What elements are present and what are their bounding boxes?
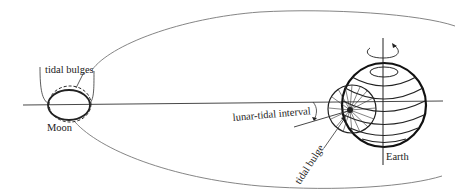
moon-label: Moon [47,122,73,133]
earth-label: Earth [386,151,409,162]
orbit-curve-upper [92,11,455,70]
tidal-bulge-label: tidal bulge [292,142,326,186]
lunar-tidal-interval-label: lunar-tidal interval [232,105,311,123]
tidal-bulges-label: tidal bulges [45,64,94,75]
moon: tidal bulges Moon [40,64,94,133]
lunar-tidal-interval: lunar-tidal interval [232,102,348,127]
earth-moon-axis [23,101,443,105]
tidal-diagram: tidal bulges Moon [0,0,466,192]
tidal-bulge-pointer: tidal bulge [292,116,346,186]
